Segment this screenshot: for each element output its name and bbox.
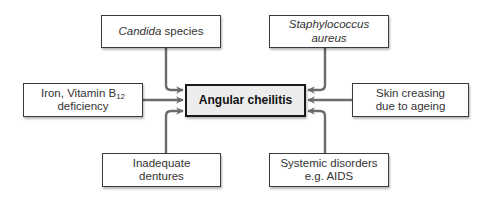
angular-cheilitis-diagram: Candida species Staphylococcus aureus Ir… bbox=[0, 0, 489, 200]
cause-dentures-line1: Inadequate bbox=[133, 157, 191, 171]
cause-iron-line1: Iron, Vitamin B bbox=[41, 87, 116, 99]
arrow-staph bbox=[308, 48, 325, 90]
cause-systemic-line1: Systemic disorders bbox=[280, 157, 377, 171]
arrow-systemic bbox=[308, 111, 325, 153]
cause-box-skin-creasing: Skin creasing due to ageing bbox=[352, 83, 469, 117]
center-box-angular-cheilitis: Angular cheilitis bbox=[185, 84, 306, 117]
cause-box-systemic-disorders: Systemic disorders e.g. AIDS bbox=[269, 153, 389, 187]
cause-staphylococcus-label: Staphylococcus aureus bbox=[270, 18, 388, 45]
cause-iron-subscript: 12 bbox=[116, 92, 125, 101]
cause-skin-line1: Skin creasing bbox=[376, 87, 445, 101]
center-label: Angular cheilitis bbox=[199, 94, 292, 108]
cause-iron-line2: deficiency bbox=[57, 100, 108, 114]
cause-box-inadequate-dentures: Inadequate dentures bbox=[102, 153, 221, 187]
arrow-dentures bbox=[166, 111, 183, 153]
cause-dentures-line2: dentures bbox=[139, 170, 184, 184]
cause-skin-line2: due to ageing bbox=[376, 100, 446, 114]
cause-systemic-line2: e.g. AIDS bbox=[305, 170, 354, 184]
cause-candida-italic: Candida bbox=[118, 25, 161, 37]
cause-box-candida: Candida species bbox=[101, 15, 221, 48]
arrow-candida bbox=[166, 48, 183, 90]
cause-candida-text: species bbox=[161, 25, 203, 37]
cause-box-iron-b12: Iron, Vitamin B12 deficiency bbox=[23, 83, 143, 117]
cause-box-staphylococcus: Staphylococcus aureus bbox=[269, 15, 389, 48]
